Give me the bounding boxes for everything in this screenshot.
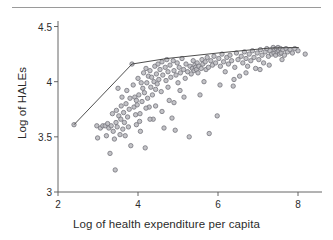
data-points [72,45,308,172]
data-point [244,71,248,75]
y-axis-label: Log of HALEs [16,67,28,139]
data-point [144,106,148,110]
data-point [126,125,130,129]
data-point [148,68,152,72]
data-point [129,143,133,147]
data-point [257,57,261,61]
data-point [166,70,170,74]
data-point [237,74,241,78]
data-point [173,128,177,132]
data-point [111,129,115,133]
data-point [140,99,144,103]
data-point [258,47,262,51]
data-point [163,65,167,69]
data-point [160,109,164,113]
data-point [296,49,300,53]
data-point [148,117,152,121]
data-point [290,51,294,55]
data-point [141,86,145,90]
data-point [232,77,236,81]
scatter-plot [0,0,333,240]
data-point [137,119,141,123]
data-point [229,59,233,63]
data-point [154,72,158,76]
x-tick-label: 6 [215,199,221,210]
y-tick-label: 3 [26,187,52,198]
data-point [95,136,99,140]
data-point [136,76,140,80]
data-point [160,60,164,64]
data-point [196,71,200,75]
x-tick-label: 8 [295,199,301,210]
data-point [127,107,131,111]
data-point [139,81,143,85]
x-axis-ticks [58,192,298,196]
data-point [124,102,128,106]
data-point [166,85,170,89]
data-point [177,65,181,69]
data-point [252,55,256,59]
data-point [110,111,114,115]
data-point [176,81,180,85]
data-point [228,53,232,57]
data-point [244,56,248,60]
y-axis-ticks [54,27,58,192]
data-point [161,73,165,77]
data-point [183,76,187,80]
data-point [205,55,209,59]
data-point [113,168,117,172]
data-point [202,79,206,83]
data-point [153,104,157,108]
data-point [108,151,112,155]
data-point [125,115,129,119]
data-point [233,65,237,69]
data-point [178,88,182,92]
data-point [116,86,120,90]
data-point [123,134,127,138]
data-point [198,93,202,97]
data-point [142,91,146,95]
data-point [158,67,162,71]
data-point [182,95,186,99]
data-point [135,103,139,107]
data-point [241,61,245,65]
data-point [174,73,178,77]
data-point [114,120,118,124]
frontier-polyline [74,47,299,124]
data-point [167,98,171,102]
data-point [223,70,227,74]
data-point [164,78,168,82]
data-point [143,146,147,150]
data-point [109,124,113,128]
data-point [303,52,307,56]
data-point [245,64,249,68]
data-point [131,83,135,87]
data-point [104,134,108,138]
y-axis-label-wrapper: Log of HALEs [12,38,30,168]
data-point [218,64,222,68]
data-point [175,61,179,65]
x-tick-label: 2 [55,199,61,210]
data-point [261,61,265,65]
data-point [138,129,142,133]
data-point [280,57,284,61]
data-point [145,96,149,100]
data-point [119,104,123,108]
data-point [231,84,235,88]
data-point [213,61,217,65]
data-point [155,82,159,86]
data-point [133,113,137,117]
data-point [112,137,116,141]
data-point [120,95,124,99]
data-point [121,127,125,131]
data-point [187,135,191,139]
data-point [138,111,142,115]
data-point [168,63,172,67]
data-point [172,68,176,72]
frontier-line [74,47,299,124]
data-point [207,131,211,135]
figure-container: 33.544.52468 Log of HALEs Log of health … [0,0,333,240]
data-point [118,132,122,136]
y-tick-label: 4.5 [26,21,52,32]
data-point [258,67,262,71]
